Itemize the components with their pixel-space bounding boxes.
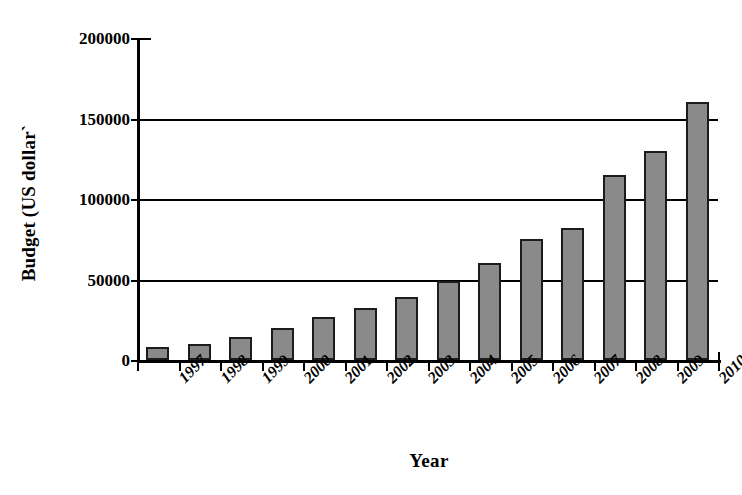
x-axis-tickmark <box>137 360 139 371</box>
x-axis-tick-label: 2000 <box>300 374 313 387</box>
bar-slot <box>552 38 594 360</box>
x-axis-tick-label: 2002 <box>383 374 396 387</box>
bar-slot <box>594 38 636 360</box>
x-axis-tick-label: 2005 <box>507 374 520 387</box>
bar-2009[interactable] <box>644 151 667 360</box>
bar-slot <box>220 38 262 360</box>
bar-2005[interactable] <box>478 263 501 360</box>
x-axis-tick-label: 2007 <box>590 374 603 387</box>
y-axis-tick-labels: 050000100000150000200000 <box>48 0 130 495</box>
bar-slot <box>179 38 221 360</box>
bar-slot <box>345 38 387 360</box>
bar-slot <box>303 38 345 360</box>
y-axis-tick-label: 150000 <box>48 110 130 127</box>
bar-1997[interactable] <box>146 347 169 360</box>
x-axis-tick-label: 1997 <box>175 374 188 387</box>
bar-slot <box>137 38 179 360</box>
x-axis-tick-label: 1999 <box>258 374 271 387</box>
bar-slot <box>635 38 677 360</box>
x-axis-tick-label: 2001 <box>341 374 354 387</box>
bar-2004[interactable] <box>437 281 460 360</box>
y-axis-tick-label: 50000 <box>48 271 130 288</box>
bar-2008[interactable] <box>603 175 626 360</box>
x-axis-tick-label: 2010 <box>715 374 728 387</box>
x-axis-tick-label: 1998 <box>217 374 230 387</box>
y-axis-title: Budget (US dollar` <box>18 48 40 358</box>
y-axis-tick-label: 0 <box>48 352 130 369</box>
bar-chart-figure: Budget (US dollar` 050000100000150000200… <box>0 0 742 495</box>
bar-slot <box>469 38 511 360</box>
bar-slot <box>428 38 470 360</box>
bar-2007[interactable] <box>561 228 584 360</box>
bar-2003[interactable] <box>395 297 418 360</box>
bar-slot <box>386 38 428 360</box>
bar-slot <box>677 38 719 360</box>
bar-slot <box>262 38 304 360</box>
x-axis-tick-label: 2004 <box>466 374 479 387</box>
x-axis-tick-label: 2006 <box>549 374 562 387</box>
y-axis-tick-label: 100000 <box>48 191 130 208</box>
bar-2010[interactable] <box>686 102 709 360</box>
x-axis-tick-label: 2003 <box>424 374 437 387</box>
x-axis-tick-label: 2009 <box>673 374 686 387</box>
x-axis-tick-labels: 1997199819992000200120022003200420052006… <box>137 374 721 444</box>
bars-layer <box>137 38 721 360</box>
bar-slot <box>511 38 553 360</box>
x-axis-title: Year <box>137 450 721 472</box>
x-axis-tick-label: 2008 <box>632 374 645 387</box>
y-axis-tick-label: 200000 <box>48 30 130 47</box>
bar-2006[interactable] <box>520 239 543 360</box>
